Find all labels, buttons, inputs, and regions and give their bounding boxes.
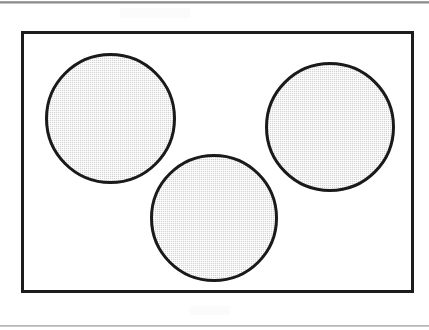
scan-rule-bottom (0, 325, 429, 327)
figure-canvas (0, 0, 429, 330)
circle-top-left (45, 53, 176, 184)
circle-top-right (265, 62, 395, 192)
scan-tint-upper (120, 8, 190, 18)
circle-bottom-center (150, 154, 278, 282)
scan-tint-lower (190, 306, 230, 315)
scan-rule-top (0, 1, 429, 4)
outer-rectangle (21, 31, 414, 293)
